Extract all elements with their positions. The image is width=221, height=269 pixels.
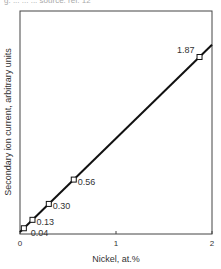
- data-point-label: 0.04: [31, 228, 49, 238]
- data-point-label: 0.30: [53, 201, 71, 211]
- data-point-marker: [30, 217, 35, 222]
- x-axis-label: Nickel, at.%: [92, 254, 140, 264]
- chart: 012 0.040.130.300.561.87 Nickel, at.% Se…: [0, 0, 221, 269]
- data-point-label: 0.13: [36, 217, 54, 227]
- y-axis-label: Secondary ion current, arbitrary units: [3, 48, 13, 196]
- x-tick-label: 2: [210, 239, 215, 248]
- x-tick-label: 1: [114, 239, 119, 248]
- data-point-marker: [46, 201, 51, 206]
- data-point-marker: [197, 55, 202, 60]
- data-point-label: 0.56: [78, 177, 96, 187]
- data-point-marker: [21, 226, 26, 231]
- data-point-label: 1.87: [177, 45, 195, 55]
- x-tick-label: 0: [18, 239, 23, 248]
- data-point-marker: [71, 177, 76, 182]
